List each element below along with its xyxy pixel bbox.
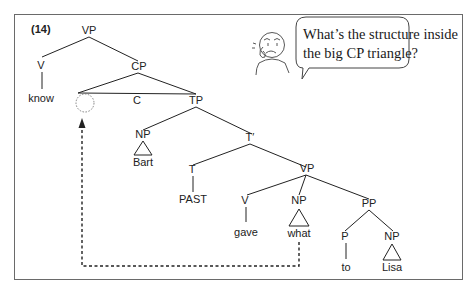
puzzled-person-icon [252, 33, 289, 76]
np-triangle-bart [134, 141, 152, 155]
speech-bubble-line1: What’s the structure inside [303, 26, 458, 42]
edge-pp-np [369, 210, 393, 231]
syntax-tree-diagram: (14) VP V know CP C TP NP Bart T′ T PAST… [0, 0, 476, 297]
speech-bubble-line2: the big CP triangle? [303, 45, 418, 61]
word-lisa: Lisa [382, 261, 403, 273]
word-gave: gave [234, 226, 258, 238]
edge-tp-np [143, 107, 196, 130]
node-v-top: V [37, 59, 45, 71]
cp-triangle-left [78, 73, 138, 93]
cp-triangle-right [138, 73, 196, 94]
edge-tbar-t [193, 144, 250, 165]
word-what: what [286, 227, 310, 239]
node-p: P [341, 230, 348, 242]
edge-tbar-vp [250, 144, 306, 167]
word-past: PAST [179, 193, 207, 205]
node-t: T [189, 163, 196, 175]
speech-bubble: What’s the structure inside the big CP t… [296, 17, 458, 79]
word-bart: Bart [133, 156, 153, 168]
word-to: to [341, 261, 350, 273]
np-triangle-what [289, 209, 309, 226]
node-cp: CP [131, 60, 146, 72]
edge-pp-p [345, 210, 369, 231]
node-tp: TP [189, 94, 203, 106]
edge-vp-np [299, 175, 306, 195]
dashed-movement-arrow-icon [79, 118, 300, 266]
dotted-circle-empty-position-icon [76, 94, 94, 112]
node-pp: PP [362, 197, 377, 209]
node-vp-top: VP [82, 24, 97, 36]
node-np-subj: NP [135, 128, 150, 140]
node-vp-low: VP [300, 162, 315, 174]
edge-vp-pp [306, 175, 369, 199]
edge-tp-tbar [196, 107, 252, 134]
example-number: (14) [31, 23, 51, 35]
node-np-obj: NP [291, 194, 306, 206]
node-v-low: V [241, 194, 249, 206]
node-np-lisa: NP [384, 230, 399, 242]
word-know: know [28, 92, 54, 104]
node-t-bar: T′ [246, 131, 255, 143]
edge-vp-cp [89, 37, 138, 61]
node-c: C [133, 94, 141, 106]
np-triangle-lisa [383, 244, 401, 260]
edge-vp-v [247, 175, 306, 195]
edge-vp-v [42, 37, 89, 57]
